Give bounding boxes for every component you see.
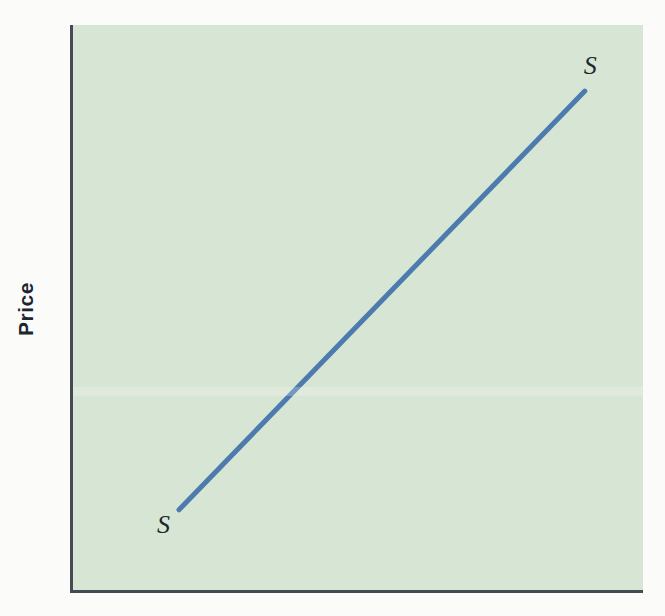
supply-label-end: S [584, 53, 597, 79]
y-axis-label: Price [14, 282, 38, 336]
plot-area: S S [70, 25, 643, 593]
supply-curve-figure: Price S S [0, 0, 665, 616]
supply-curve-svg [73, 25, 643, 590]
supply-label-start: S [157, 512, 170, 538]
supply-curve-line [179, 91, 585, 510]
